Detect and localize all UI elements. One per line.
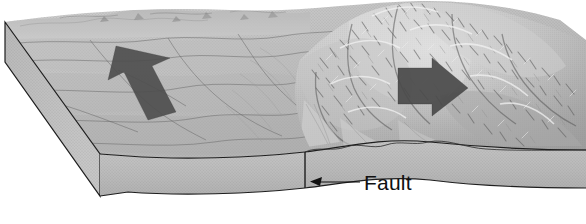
- front-face-left-texture: [100, 152, 305, 196]
- block-front-face-left: [100, 152, 305, 196]
- diagram-canvas: Fault: [0, 0, 586, 224]
- fault-block-diagram: Fault: [0, 0, 586, 224]
